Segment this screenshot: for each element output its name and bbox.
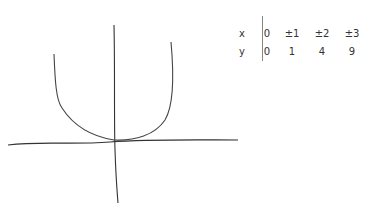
table-cell: 0 bbox=[257, 46, 277, 57]
table-cell: ±3 bbox=[342, 28, 362, 39]
x-axis bbox=[8, 140, 238, 145]
table-cell: ±2 bbox=[312, 28, 332, 39]
parabola-sketch bbox=[0, 0, 240, 206]
row-label: x bbox=[232, 28, 252, 39]
row-label: y bbox=[232, 46, 252, 57]
table-cell: 4 bbox=[312, 46, 332, 57]
table-cell: ±1 bbox=[282, 28, 302, 39]
table-cell: 1 bbox=[282, 46, 302, 57]
table-cell: 9 bbox=[342, 46, 362, 57]
table-cell: 0 bbox=[257, 28, 277, 39]
y-axis bbox=[114, 25, 118, 203]
parabola-curve bbox=[54, 42, 173, 140]
